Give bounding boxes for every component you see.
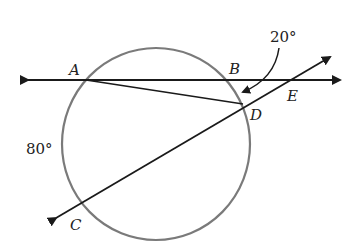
point-label-B: B [228,60,240,78]
angle-pointer-arrow [243,48,279,92]
segment-AD [86,80,243,104]
point-label-A: A [67,61,80,79]
arc-label-80: 80° [26,140,53,158]
point-label-C: C [70,216,82,234]
circle [62,48,250,240]
angle-label-20: 20° [270,28,297,46]
point-label-E: E [286,87,298,105]
point-label-D: D [249,106,262,124]
geometry-diagram: A B E D C 20° 80° [0,0,360,247]
